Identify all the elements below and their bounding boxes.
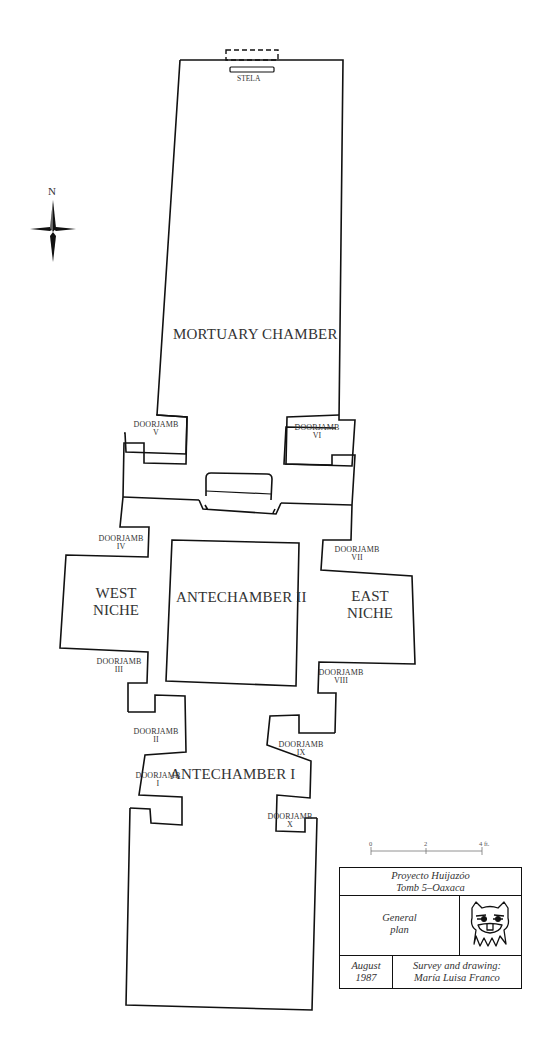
west-niche-label: WEST NICHE <box>91 585 141 620</box>
doorjamb-ii-label: DOORJAMBII <box>131 728 181 745</box>
antechamber-i-west-walls <box>128 695 186 825</box>
north-arrow-icon <box>30 200 76 262</box>
bench-top <box>206 473 272 500</box>
west-niche-line2: NICHE <box>91 602 141 619</box>
doorjamb-x-label: DOORJAMBX <box>265 813 315 830</box>
north-label: N <box>48 186 56 198</box>
doorjamb-iii-label: DOORJAMBIII <box>94 658 144 675</box>
bench-divider <box>206 491 271 494</box>
title-block-plan-type: General plan <box>340 896 460 956</box>
mortuary-chamber-walls <box>124 60 355 466</box>
east-niche-label: EAST NICHE <box>345 588 395 623</box>
scale-tick-4: 4 ft. <box>479 840 489 847</box>
scale-bar <box>371 847 482 855</box>
lower-chamber-walls <box>126 808 317 1010</box>
stela-slab <box>230 67 274 72</box>
scale-tick-2: 2 <box>424 840 427 847</box>
corridor-south-wall-right <box>281 503 352 505</box>
antechamber-ii-walls <box>166 540 299 686</box>
west-niche-line1: WEST <box>91 585 141 602</box>
antechamber-ii-label: ANTECHAMBER II <box>176 590 307 606</box>
zapotec-mask-icon <box>460 896 520 954</box>
corridor-south-wall-left <box>123 497 199 500</box>
scale-tick-0: 0 <box>369 840 372 847</box>
title-block-credit: Survey and drawing: María Luisa Franco <box>393 956 521 988</box>
stela-label: STELA <box>237 75 260 83</box>
doorjamb-vi-label: DOORJAMBVI <box>292 424 342 441</box>
title-block-date: August 1987 <box>340 956 393 988</box>
doorjamb-i-label: DOORJAMBI <box>133 772 183 789</box>
title-block-project: Proyecto Huijazóo Tomb 5–Oaxaca <box>340 868 521 896</box>
title-block-logo <box>460 896 521 956</box>
east-niche-line2: NICHE <box>345 605 395 622</box>
project-subtitle: Tomb 5–Oaxaca <box>340 882 521 894</box>
bench-base <box>199 500 281 514</box>
stela-dashed-outline <box>226 50 278 60</box>
doorjamb-viii-label: DOORJAMBVIII <box>316 669 366 686</box>
doorjamb-iv-label: DOORJAMBIV <box>96 535 146 552</box>
title-block: Proyecto Huijazóo Tomb 5–Oaxaca General … <box>339 867 522 989</box>
east-niche-line1: EAST <box>345 588 395 605</box>
mortuary-chamber-label: MORTUARY CHAMBER <box>173 327 338 343</box>
doorjamb-v-label: DOORJAMBV <box>131 421 181 438</box>
doorjamb-ix-label: DOORJAMBIX <box>276 741 326 758</box>
project-name: Proyecto Huijazóo <box>340 870 521 882</box>
doorjamb-vii-label: DOORJAMBVII <box>332 546 382 563</box>
antechamber-i-label: ANTECHAMBER I <box>170 767 296 783</box>
